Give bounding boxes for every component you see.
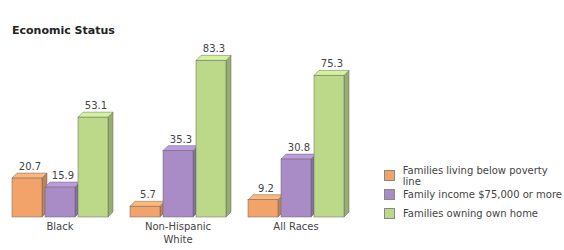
bar-top <box>314 70 349 75</box>
data-label: 53.1 <box>85 100 107 111</box>
category-label: Non-Hispanic <box>145 221 211 232</box>
bar-top <box>78 112 113 117</box>
bar <box>314 75 344 217</box>
data-label: 83.3 <box>203 43 225 54</box>
data-label: 75.3 <box>321 58 343 69</box>
bar-side <box>108 112 113 217</box>
bar <box>196 60 226 217</box>
bar-side <box>344 70 349 217</box>
legend-item: Family income $75,000 or more <box>384 185 564 204</box>
legend-label: Family income $75,000 or more <box>403 189 562 200</box>
bar <box>78 117 108 217</box>
bar-top <box>248 195 283 200</box>
legend-swatch <box>384 170 395 181</box>
legend-swatch <box>384 189 395 200</box>
legend-label: Families owning own home <box>403 208 538 219</box>
data-label: 5.7 <box>140 189 156 200</box>
bar <box>163 151 193 217</box>
bar <box>130 206 160 217</box>
legend-swatch <box>384 208 395 219</box>
bar-top <box>163 146 198 151</box>
bar <box>248 200 278 217</box>
data-label: 35.3 <box>170 134 192 145</box>
data-label: 15.9 <box>52 170 74 181</box>
bar <box>45 187 75 217</box>
category-label: All Races <box>273 221 318 232</box>
data-label: 9.2 <box>258 183 274 194</box>
bar-top <box>45 182 80 187</box>
category-label: Black <box>46 221 73 232</box>
legend-item: Families owning own home <box>384 204 564 223</box>
legend: Families living below poverty line Famil… <box>384 166 564 223</box>
bar-top <box>130 201 165 206</box>
bar <box>281 159 311 217</box>
data-label: 20.7 <box>19 161 41 172</box>
category-label: White <box>163 234 192 245</box>
bar-top <box>281 154 316 159</box>
bar-side <box>226 55 231 217</box>
bar <box>12 178 42 217</box>
bar-top <box>196 55 231 60</box>
legend-item: Families living below poverty line <box>384 166 564 185</box>
data-label: 30.8 <box>288 142 310 153</box>
bar-top <box>12 173 47 178</box>
legend-label: Families living below poverty line <box>403 165 564 187</box>
